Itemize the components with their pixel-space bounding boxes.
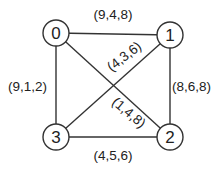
node-label-3: 3 — [51, 128, 60, 147]
node-1: 1 — [157, 22, 183, 48]
edges — [56, 33, 170, 137]
edge-label-3-1: (4,3,6) — [104, 39, 144, 75]
node-3: 3 — [43, 124, 69, 150]
edge-label-3-2: (4,5,6) — [93, 148, 132, 163]
graph-diagram: (9,4,8) (8,6,8) (4,5,6) (9,1,2) (4,3,6) … — [0, 0, 223, 171]
edge-label-1-2: (8,6,8) — [172, 79, 211, 94]
node-label-1: 1 — [165, 26, 174, 45]
edge-0-1 — [56, 33, 170, 35]
node-label-2: 2 — [165, 128, 174, 147]
node-2: 2 — [157, 124, 183, 150]
edge-label-0-1: (9,4,8) — [93, 7, 132, 22]
node-0: 0 — [43, 20, 69, 46]
edge-label-0-3: (9,1,2) — [8, 79, 47, 94]
node-label-0: 0 — [51, 24, 60, 43]
